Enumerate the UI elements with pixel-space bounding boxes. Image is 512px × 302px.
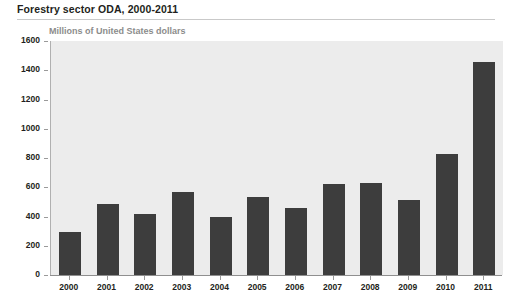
y-axis-tick-mark bbox=[44, 41, 48, 42]
x-axis-tick-label: 2002 bbox=[124, 282, 164, 292]
x-axis-tick-label: 2004 bbox=[200, 282, 240, 292]
y-axis-tick-label: 1000 bbox=[21, 123, 40, 133]
y-axis-tick-mark bbox=[44, 158, 48, 159]
x-axis-tick-label: 2001 bbox=[87, 282, 127, 292]
title-block: Forestry sector ODA, 2000-2011 bbox=[17, 2, 495, 24]
x-axis-tick-label: 2007 bbox=[313, 282, 353, 292]
x-axis-tick-mark bbox=[182, 276, 183, 280]
y-axis-tick-label: 600 bbox=[26, 181, 40, 191]
bar bbox=[97, 204, 119, 275]
x-axis-tick-label: 2009 bbox=[388, 282, 428, 292]
bar bbox=[134, 214, 156, 275]
x-axis-tick-label: 2006 bbox=[275, 282, 315, 292]
bar bbox=[360, 183, 382, 275]
x-axis-tick-label: 2010 bbox=[426, 282, 466, 292]
title-divider bbox=[17, 19, 495, 20]
x-axis-tick-label: 2000 bbox=[49, 282, 89, 292]
y-axis-tick-label: 1200 bbox=[21, 94, 40, 104]
chart-figure: Forestry sector ODA, 2000-2011 Millions … bbox=[0, 0, 512, 302]
x-axis-tick-mark bbox=[446, 276, 447, 280]
page-title: Forestry sector ODA, 2000-2011 bbox=[17, 2, 495, 17]
x-axis-tick-mark bbox=[483, 276, 484, 280]
bars-layer bbox=[51, 41, 503, 275]
x-axis-line bbox=[50, 275, 502, 276]
x-axis-tick-label: 2008 bbox=[350, 282, 390, 292]
x-axis-tick-mark bbox=[295, 276, 296, 280]
x-axis-tick-mark bbox=[144, 276, 145, 280]
y-axis-tick-label: 800 bbox=[26, 152, 40, 162]
x-axis-tick-mark bbox=[370, 276, 371, 280]
bar bbox=[323, 184, 345, 275]
bar bbox=[436, 154, 458, 275]
bar bbox=[473, 62, 495, 275]
bar bbox=[247, 197, 269, 275]
y-axis-tick-label: 1600 bbox=[21, 35, 40, 45]
y-axis-tick-mark bbox=[44, 70, 48, 71]
y-axis-tick-mark bbox=[44, 217, 48, 218]
x-axis-tick-mark bbox=[220, 276, 221, 280]
x-axis-tick-mark bbox=[333, 276, 334, 280]
x-axis-tick-label: 2003 bbox=[162, 282, 202, 292]
x-axis-tick-mark bbox=[107, 276, 108, 280]
y-axis-tick-mark bbox=[44, 187, 48, 188]
y-axis-tick-label: 400 bbox=[26, 211, 40, 221]
x-axis-tick-mark bbox=[257, 276, 258, 280]
plot-area bbox=[50, 41, 503, 275]
bar bbox=[210, 217, 232, 276]
bar bbox=[59, 232, 81, 275]
y-axis-units-label: Millions of United States dollars bbox=[49, 26, 186, 36]
y-axis-tick-mark bbox=[44, 246, 48, 247]
y-axis-tick-mark bbox=[44, 129, 48, 130]
y-axis-tick-label: 0 bbox=[35, 269, 40, 279]
bar bbox=[285, 208, 307, 275]
y-axis-tick-mark bbox=[44, 100, 48, 101]
x-axis-tick-mark bbox=[408, 276, 409, 280]
bar bbox=[172, 192, 194, 275]
x-axis-tick-mark bbox=[69, 276, 70, 280]
y-axis-tick-mark bbox=[44, 275, 48, 276]
y-axis-tick-label: 1400 bbox=[21, 64, 40, 74]
x-axis-tick-label: 2005 bbox=[237, 282, 277, 292]
bar bbox=[398, 200, 420, 275]
x-axis-tick-label: 2011 bbox=[463, 282, 503, 292]
y-axis-tick-label: 200 bbox=[26, 240, 40, 250]
